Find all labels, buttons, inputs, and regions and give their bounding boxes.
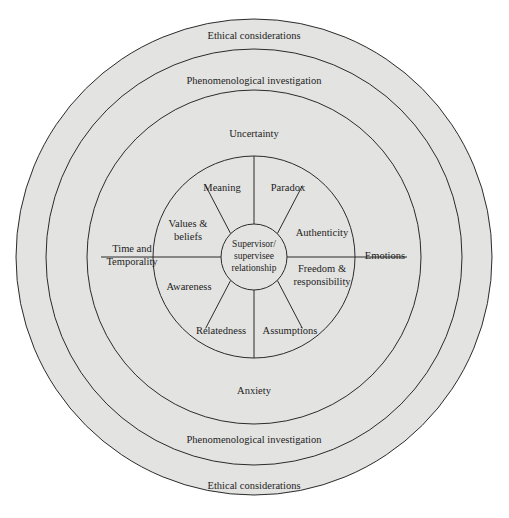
segment-label-assumptions: Assumptions xyxy=(263,325,318,336)
segment-label-values-beliefs-line2: beliefs xyxy=(174,231,202,242)
segment-label-values-beliefs-line1: Values & xyxy=(169,218,208,229)
label-phenomenological-investigation-top: Phenomenological investigation xyxy=(186,75,322,86)
diagram-canvas: REVIEW RAVEL'S TOP AND MAKE SURE THAT IS… xyxy=(0,0,509,518)
existential-supervision-wheel: Ethical considerations Ethical considera… xyxy=(0,0,509,518)
label-ethical-considerations-top: Ethical considerations xyxy=(207,30,300,41)
label-time-and-temporality-line1: Time and xyxy=(112,243,152,254)
hub-label-line2: supervisee xyxy=(234,251,274,261)
segment-label-awareness: Awareness xyxy=(166,281,211,292)
label-anxiety: Anxiety xyxy=(237,385,272,396)
label-time-and-temporality-line2: Temporality xyxy=(106,256,158,267)
hub-label-line1: Supervisor/ xyxy=(232,239,276,249)
label-uncertainty: Uncertainty xyxy=(229,128,279,139)
segment-label-authenticity: Authenticity xyxy=(296,227,349,238)
segment-label-paradox: Paradox xyxy=(271,182,306,193)
segment-label-freedom-responsibility-line1: Freedom & xyxy=(298,263,346,274)
label-phenomenological-investigation-bottom: Phenomenological investigation xyxy=(186,434,322,445)
label-ethical-considerations-bottom: Ethical considerations xyxy=(207,480,300,491)
segment-label-freedom-responsibility-line2: responsibility xyxy=(293,276,351,287)
segment-label-meaning: Meaning xyxy=(203,182,241,193)
hub-label-line3: relationship xyxy=(232,263,277,273)
segment-label-relatedness: Relatedness xyxy=(196,325,246,336)
label-emotions: Emotions xyxy=(365,250,405,261)
